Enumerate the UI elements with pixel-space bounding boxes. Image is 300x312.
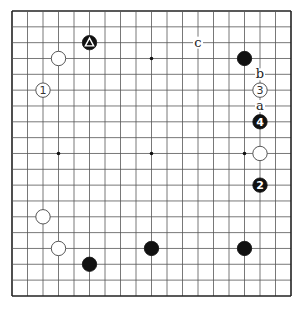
white-stone-3: 3 xyxy=(253,83,267,97)
star-point xyxy=(243,152,247,156)
go-board-diagram: cba 1342 xyxy=(0,0,300,312)
move-number: 2 xyxy=(256,179,264,192)
move-number: 1 xyxy=(40,84,47,97)
black-stone xyxy=(82,257,96,271)
star-point xyxy=(150,57,154,61)
white-stone xyxy=(36,210,50,224)
star-point xyxy=(57,152,61,156)
black-stone xyxy=(144,241,158,255)
letter-label-a: a xyxy=(256,98,264,113)
black-stone xyxy=(82,35,96,49)
white-stone xyxy=(51,51,65,65)
white-stone xyxy=(253,146,267,160)
black-stone-icon xyxy=(144,241,158,255)
letter-label-c: c xyxy=(194,35,201,50)
white-stone-1: 1 xyxy=(36,83,50,97)
move-number: 4 xyxy=(256,116,264,129)
black-stone xyxy=(237,241,251,255)
black-stone-icon xyxy=(237,51,251,65)
black-stone-icon xyxy=(237,241,251,255)
white-stone-icon xyxy=(51,51,65,65)
white-stone-icon xyxy=(36,210,50,224)
move-number: 3 xyxy=(257,84,264,97)
black-stone-icon xyxy=(82,257,96,271)
white-stone xyxy=(51,241,65,255)
star-point xyxy=(150,152,154,156)
black-stone-2: 2 xyxy=(253,178,267,192)
white-stone-icon xyxy=(51,241,65,255)
black-stone-4: 4 xyxy=(253,115,267,129)
black-stone xyxy=(237,51,251,65)
letter-label-b: b xyxy=(256,66,264,81)
white-stone-icon xyxy=(253,146,267,160)
